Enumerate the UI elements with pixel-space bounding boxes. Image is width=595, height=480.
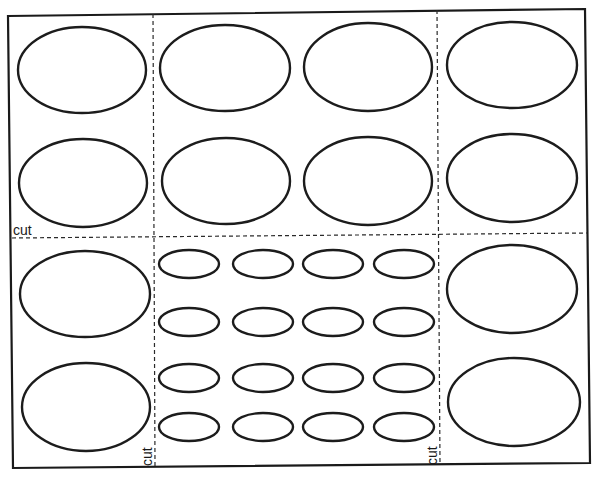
- large-oval-5: [19, 139, 147, 227]
- right-vertical-cut-label: cut: [424, 446, 440, 465]
- large-oval-2: [160, 25, 290, 111]
- small-oval-r1-c1: [159, 250, 219, 278]
- small-oval-r2-c4: [374, 308, 434, 336]
- large-oval-9: [20, 251, 150, 337]
- large-ovals-group: [18, 22, 580, 451]
- small-oval-r4-c4: [374, 413, 434, 441]
- large-oval-1: [18, 27, 146, 113]
- small-oval-r2-c3: [303, 308, 363, 336]
- small-oval-r1-c2: [233, 250, 293, 278]
- right-vertical-cut-line: [437, 10, 440, 464]
- small-ovals-grid: [159, 250, 434, 441]
- large-oval-6: [162, 138, 290, 224]
- large-oval-10: [22, 363, 150, 451]
- large-oval-12: [448, 358, 580, 446]
- horizontal-cut-line: [12, 233, 587, 238]
- large-oval-4: [447, 22, 577, 108]
- large-oval-3: [304, 23, 432, 111]
- small-oval-r3-c1: [159, 364, 219, 392]
- small-oval-r3-c3: [303, 364, 363, 392]
- large-oval-7: [304, 137, 432, 225]
- small-oval-r1-c4: [374, 250, 434, 278]
- small-oval-r3-c4: [374, 364, 434, 392]
- small-oval-r2-c1: [159, 308, 219, 336]
- small-oval-r4-c2: [233, 413, 293, 441]
- large-oval-11: [447, 245, 577, 333]
- small-oval-r1-c3: [303, 250, 363, 278]
- large-oval-8: [447, 134, 577, 222]
- small-oval-r2-c2: [233, 308, 293, 336]
- small-oval-r4-c3: [303, 413, 363, 441]
- small-oval-r4-c1: [159, 413, 219, 441]
- left-vertical-cut-label: cut: [139, 447, 155, 466]
- small-oval-r3-c2: [233, 364, 293, 392]
- left-vertical-cut-line: [153, 14, 155, 466]
- cutout-sheet: cut cut cut: [0, 0, 595, 480]
- horizontal-cut-label: cut: [13, 222, 32, 238]
